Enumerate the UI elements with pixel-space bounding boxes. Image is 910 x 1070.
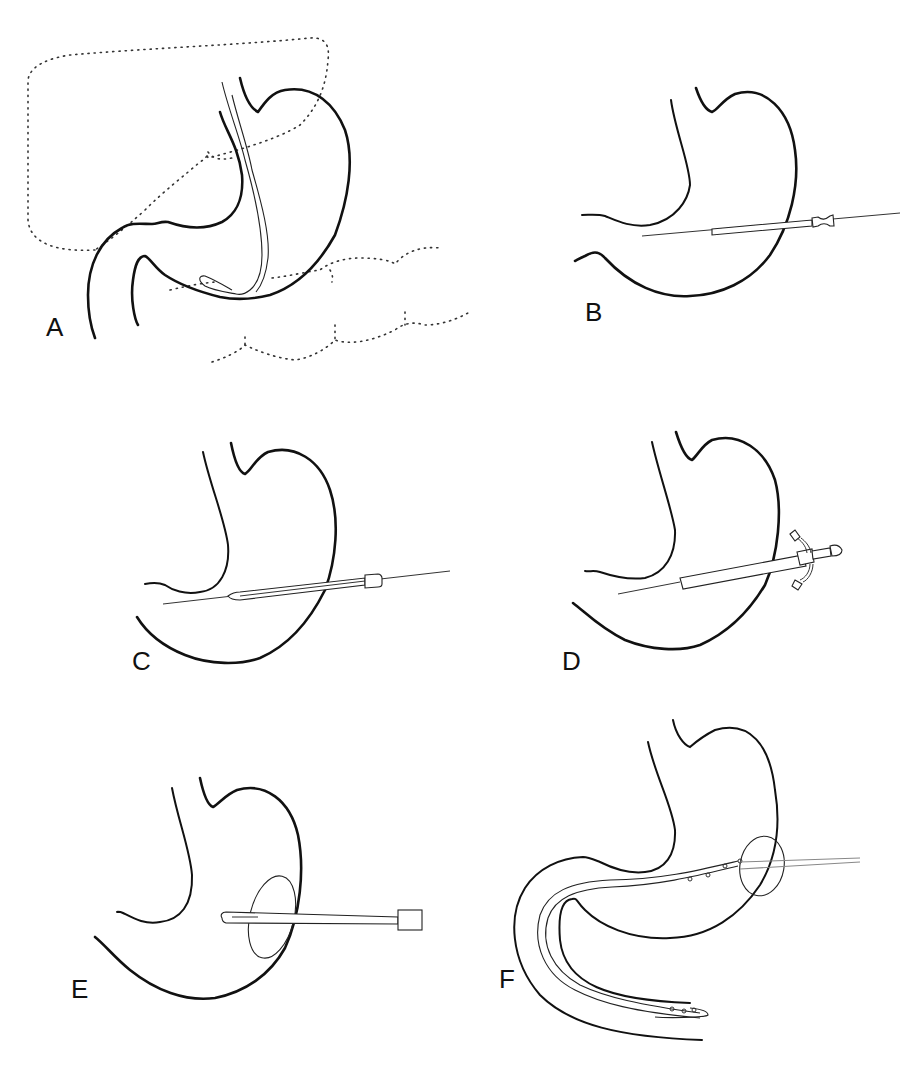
panel-a-drawing [28, 38, 468, 362]
illustration-canvas [0, 0, 910, 1070]
panel-label-c: C [132, 648, 151, 674]
panel-label-a: A [46, 314, 63, 340]
panel-label-d: D [562, 648, 581, 674]
figure: A B C D E F [0, 0, 910, 1070]
panel-label-f: F [499, 966, 515, 992]
panel-label-e: E [71, 976, 88, 1002]
panel-b-drawing [575, 88, 900, 296]
panel-e-drawing [95, 778, 422, 999]
panel-c-drawing [137, 443, 450, 663]
panel-d-drawing [573, 432, 842, 649]
panel-label-b: B [585, 299, 602, 325]
panel-f-drawing [514, 720, 860, 1040]
